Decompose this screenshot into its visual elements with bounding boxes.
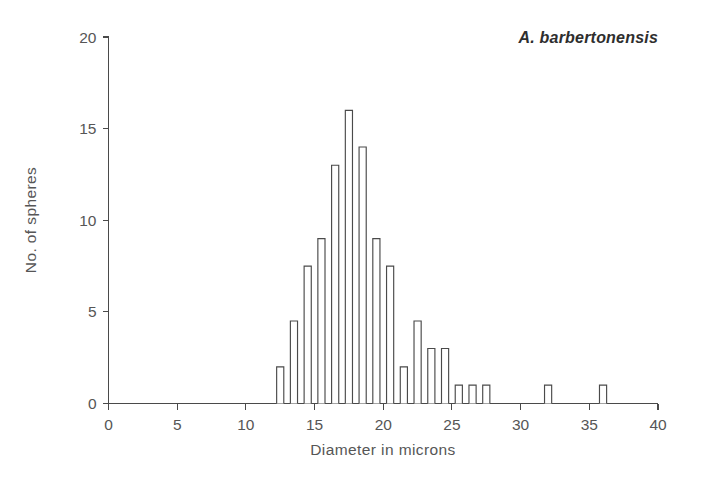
- histogram-bar: [400, 367, 407, 404]
- histogram-bar: [469, 385, 476, 403]
- histogram-bar: [414, 321, 421, 403]
- chart-title-species: A. barbertonensis: [518, 29, 658, 46]
- histogram-bar: [359, 147, 366, 404]
- histogram-bars: [277, 110, 607, 403]
- histogram-bar: [304, 266, 311, 403]
- histogram-bar: [455, 385, 462, 403]
- histogram-bar: [483, 385, 490, 403]
- histogram-bar: [332, 165, 339, 403]
- x-tick-label-0: 0: [104, 416, 113, 433]
- y-tick-label-10: 10: [79, 212, 97, 229]
- histogram-bar: [318, 239, 325, 404]
- y-axis-title: No. of spheres: [22, 167, 39, 273]
- x-tick-label-30: 30: [512, 416, 530, 433]
- y-tick-label-15: 15: [79, 120, 96, 137]
- x-axis-tick-labels: 0510152025303540: [104, 416, 667, 433]
- x-tick-label-35: 35: [581, 416, 598, 433]
- histogram-bar: [428, 349, 435, 404]
- x-tick-label-15: 15: [306, 416, 323, 433]
- histogram-bar: [387, 266, 394, 403]
- x-tick-label-10: 10: [237, 416, 255, 433]
- x-axis-title: Diameter in microns: [310, 441, 455, 458]
- y-axis-tick-labels: 05101520: [79, 29, 97, 413]
- histogram-figure: A. barbertonensis 05101520 0510152025303…: [0, 0, 711, 484]
- histogram-bar: [373, 239, 380, 404]
- histogram-bar: [442, 349, 449, 404]
- y-axis-ticks: [103, 37, 109, 404]
- histogram-bar: [345, 110, 352, 403]
- histogram-bar: [599, 385, 606, 403]
- histogram-bar: [545, 385, 552, 403]
- histogram-bar: [277, 367, 284, 404]
- x-axis-ticks: [109, 404, 659, 410]
- x-tick-label-40: 40: [649, 416, 667, 433]
- x-tick-label-20: 20: [375, 416, 393, 433]
- y-tick-label-0: 0: [88, 395, 97, 412]
- x-tick-label-5: 5: [173, 416, 182, 433]
- x-tick-label-25: 25: [443, 416, 460, 433]
- y-tick-label-20: 20: [79, 29, 97, 46]
- histogram-bar: [290, 321, 297, 403]
- y-tick-label-5: 5: [88, 303, 97, 320]
- chart-canvas: A. barbertonensis 05101520 0510152025303…: [0, 0, 711, 484]
